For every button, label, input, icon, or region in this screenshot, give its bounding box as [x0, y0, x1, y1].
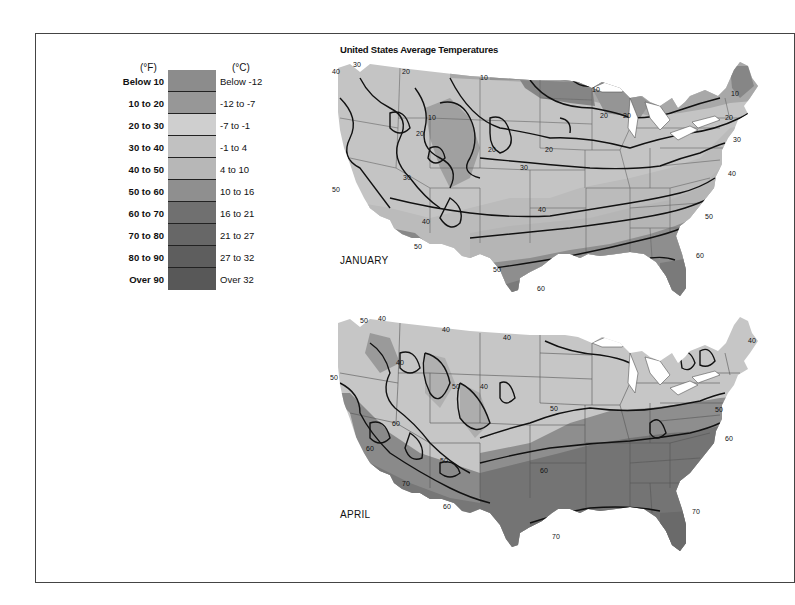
isotherm-label: 40 [480, 383, 488, 390]
isotherm-label: 50 [493, 266, 501, 273]
isotherm-label: 70 [692, 508, 700, 515]
legend-swatch [168, 224, 216, 246]
legend-fahrenheit-label: 50 to 60 [100, 186, 164, 197]
legend-celsius-label: 10 to 16 [220, 186, 290, 197]
legend-swatch [168, 180, 216, 202]
isotherm-label: 10 [731, 90, 739, 97]
legend-swatch [168, 92, 216, 114]
isotherm-label: 70 [402, 480, 410, 487]
isotherm-label: 40 [503, 334, 511, 341]
isotherm-label: 50 [414, 243, 422, 250]
legend-celsius-label: 21 to 27 [220, 230, 290, 241]
january-label: JANUARY [340, 255, 389, 266]
legend-celsius-label: Below -12 [220, 76, 290, 87]
legend-fahrenheit-label: 20 to 30 [100, 120, 164, 131]
isotherm-label: 20 [600, 112, 608, 119]
isotherm-label: 40 [396, 359, 404, 366]
legend-fahrenheit-label: Below 10 [100, 76, 164, 87]
legend-fahrenheit-label: 60 to 70 [100, 208, 164, 219]
isotherm-label: 40 [538, 206, 546, 213]
january-map: 30 40 20 10 20 10 20 20 10 20 20 30 30 4… [330, 58, 785, 303]
april-label: APRIL [340, 509, 370, 520]
isotherm-label: 70 [552, 533, 560, 540]
legend-swatch [168, 114, 216, 136]
isotherm-label: 50 [360, 317, 368, 324]
isotherm-label: 30 [520, 164, 528, 171]
isotherm-label: 10 [592, 86, 600, 93]
legend-swatch [168, 70, 216, 92]
isotherm-label: 20 [623, 112, 631, 119]
legend-swatch [168, 246, 216, 268]
isotherm-label: 50 [330, 374, 338, 381]
april-map: 40 40 40 50 40 50 50 40 50 60 60 70 60 5… [330, 313, 785, 558]
legend-celsius-label: 16 to 21 [220, 208, 290, 219]
isotherm-label: 30 [403, 174, 411, 181]
isotherm-label: 60 [696, 252, 704, 259]
legend-fahrenheit-label: 40 to 50 [100, 164, 164, 175]
isotherm-label: 20 [545, 146, 553, 153]
isotherm-label: 10 [480, 74, 488, 81]
isotherm-label: 60 [540, 467, 548, 474]
isotherm-label: 50 [452, 383, 460, 390]
isotherm-label: 40 [422, 218, 430, 225]
isotherm-label: 60 [443, 503, 451, 510]
legend-fahrenheit-label: 80 to 90 [100, 252, 164, 263]
legend-celsius-label: -7 to -1 [220, 120, 290, 131]
isotherm-label: 40 [378, 315, 386, 322]
isotherm-label: 20 [416, 130, 424, 137]
isotherm-label: 10 [428, 114, 436, 121]
isotherm-label: 60 [366, 445, 374, 452]
legend-swatch [168, 158, 216, 180]
isotherm-label: 50 [715, 406, 723, 413]
isotherm-label: 60 [392, 420, 400, 427]
isotherm-label: 40 [748, 337, 756, 344]
isotherm-label: 40 [332, 68, 340, 75]
legend-fahrenheit-label: 30 to 40 [100, 142, 164, 153]
legend-swatch [168, 136, 216, 158]
legend-celsius-label: -1 to 4 [220, 142, 290, 153]
isotherm-label: 50 [332, 186, 340, 193]
isotherm-label: 50 [705, 213, 713, 220]
isotherm-label: 50 [440, 457, 448, 464]
legend-fahrenheit-label: Over 90 [100, 274, 164, 285]
legend-swatch [168, 268, 216, 290]
legend-fahrenheit-label: 10 to 20 [100, 98, 164, 109]
legend-celsius-label: 4 to 10 [220, 164, 290, 175]
isotherm-label: 20 [725, 114, 733, 121]
legend-swatch [168, 202, 216, 224]
legend-color-bar [168, 70, 216, 290]
isotherm-label: 20 [488, 146, 496, 153]
isotherm-label: 20 [402, 68, 410, 75]
page-title: United States Average Temperatures [340, 44, 498, 55]
legend-fahrenheit-label: 70 to 80 [100, 230, 164, 241]
legend-celsius-label: -12 to -7 [220, 98, 290, 109]
isotherm-label: 60 [537, 285, 545, 292]
isotherm-label: 50 [550, 405, 558, 412]
legend-fahrenheit-header: (°F) [140, 62, 157, 73]
legend-celsius-label: 27 to 32 [220, 252, 290, 263]
isotherm-label: 40 [442, 326, 450, 333]
isotherm-label: 30 [353, 61, 361, 68]
legend-celsius-label: Over 32 [220, 274, 290, 285]
isotherm-label: 40 [728, 170, 736, 177]
legend-celsius-header: (°C) [232, 62, 250, 73]
isotherm-label: 30 [733, 136, 741, 143]
isotherm-label: 60 [725, 435, 733, 442]
